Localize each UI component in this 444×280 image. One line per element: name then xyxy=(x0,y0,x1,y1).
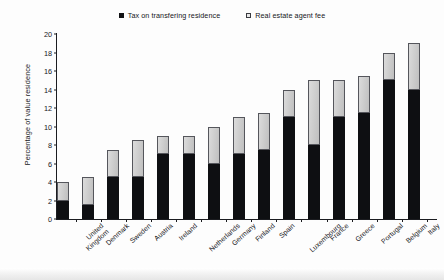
bar-segment-tax[interactable] xyxy=(308,145,320,219)
y-axis-tick: 8 xyxy=(41,141,57,150)
y-axis-tick-label: 4 xyxy=(41,178,52,187)
bar-stack[interactable] xyxy=(258,113,270,219)
bar-stack[interactable] xyxy=(183,136,195,219)
bar-stack[interactable] xyxy=(308,80,320,219)
x-axis-label: Italy xyxy=(427,222,442,237)
bar-segment-tax[interactable] xyxy=(82,205,94,219)
bar-segment-agent-fee[interactable] xyxy=(107,150,119,178)
bar-segment-agent-fee[interactable] xyxy=(208,127,220,164)
y-axis-tick-label: 14 xyxy=(41,85,52,94)
x-axis-label: Spain xyxy=(277,222,296,240)
bar-stack[interactable] xyxy=(408,43,420,219)
bar-segment-tax[interactable] xyxy=(408,90,420,220)
bar-segment-tax[interactable] xyxy=(157,154,169,219)
bar-segment-tax[interactable] xyxy=(107,177,119,219)
bar-stack[interactable] xyxy=(157,136,169,219)
y-axis-tick-label: 0 xyxy=(41,215,52,224)
y-axis-tick-mark xyxy=(54,108,57,109)
y-axis-tick-label: 12 xyxy=(41,104,52,113)
bar-stack[interactable] xyxy=(208,127,220,220)
x-axis-tick-mark xyxy=(126,219,127,222)
chart-area: Percentage of value residence 0246810121… xyxy=(0,0,444,280)
y-axis-tick: 18 xyxy=(41,48,57,57)
bar-segment-agent-fee[interactable] xyxy=(383,53,395,81)
bar-segment-tax[interactable] xyxy=(233,154,245,219)
bar-stack[interactable] xyxy=(82,177,94,219)
x-axis-tick-mark xyxy=(151,219,152,222)
x-axis-tick-mark xyxy=(226,219,227,222)
bar-stack[interactable] xyxy=(358,76,370,219)
y-axis-tick: 20 xyxy=(41,30,57,39)
y-axis-tick-label: 16 xyxy=(41,67,52,76)
y-axis-tick-label: 8 xyxy=(41,141,52,150)
x-axis-tick-mark xyxy=(276,219,277,222)
x-axis-line xyxy=(56,219,437,220)
y-axis-tick: 4 xyxy=(41,178,57,187)
y-axis-tick-mark xyxy=(54,145,57,146)
bar-segment-agent-fee[interactable] xyxy=(183,136,195,155)
bar-stack[interactable] xyxy=(383,53,395,220)
bar-segment-agent-fee[interactable] xyxy=(358,76,370,113)
bar-segment-agent-fee[interactable] xyxy=(333,80,345,117)
y-axis-title: Percentage of value residence xyxy=(23,35,32,195)
x-axis-label: Portugal xyxy=(380,222,405,246)
y-axis-tick: 12 xyxy=(41,104,57,113)
y-axis-tick-label: 6 xyxy=(41,159,52,168)
bar-segment-agent-fee[interactable] xyxy=(57,182,69,201)
y-axis-tick-mark xyxy=(54,126,57,127)
x-axis-label: Belgium xyxy=(405,222,430,245)
x-axis-tick-mark xyxy=(101,219,102,222)
y-axis-tick: 2 xyxy=(41,196,57,205)
bar-segment-agent-fee[interactable] xyxy=(157,136,169,155)
bar-stack[interactable] xyxy=(333,80,345,219)
bar-segment-tax[interactable] xyxy=(132,177,144,219)
x-axis-tick-mark xyxy=(427,219,428,222)
x-axis-tick-mark xyxy=(76,219,77,222)
y-axis-tick-label: 2 xyxy=(41,196,52,205)
bar-segment-tax[interactable] xyxy=(57,201,69,220)
x-axis-tick-mark xyxy=(201,219,202,222)
bar-stack[interactable] xyxy=(233,117,245,219)
bar-segment-agent-fee[interactable] xyxy=(258,113,270,150)
y-axis-tick-mark xyxy=(54,34,57,35)
x-axis-label: Finland xyxy=(254,222,277,244)
x-axis-tick-mark xyxy=(402,219,403,222)
bar-segment-agent-fee[interactable] xyxy=(82,177,94,205)
bar-segment-tax[interactable] xyxy=(358,113,370,219)
y-axis-tick: 10 xyxy=(41,122,57,131)
bar-segment-tax[interactable] xyxy=(258,150,270,219)
bar-stack[interactable] xyxy=(107,150,119,219)
bar-segment-tax[interactable] xyxy=(383,80,395,219)
y-axis-tick-mark xyxy=(54,52,57,53)
x-axis-tick-mark xyxy=(301,219,302,222)
y-axis-tick-mark xyxy=(54,163,57,164)
bar-segment-tax[interactable] xyxy=(283,117,295,219)
bar-segment-agent-fee[interactable] xyxy=(308,80,320,145)
x-axis-tick-mark xyxy=(327,219,328,222)
x-axis-label: United Kingdom xyxy=(79,222,111,253)
bar-segment-tax[interactable] xyxy=(208,164,220,220)
bar-segment-tax[interactable] xyxy=(183,154,195,219)
chart-page: Tax on transfering residence Real estate… xyxy=(0,0,444,280)
y-axis-tick-label: 20 xyxy=(41,30,52,39)
x-axis-label: Greece xyxy=(354,222,377,244)
y-axis-tick: 16 xyxy=(41,67,57,76)
x-axis-tick-mark xyxy=(251,219,252,222)
x-axis-tick-mark xyxy=(352,219,353,222)
y-axis-tick: 6 xyxy=(41,159,57,168)
bar-segment-agent-fee[interactable] xyxy=(233,117,245,154)
bar-stack[interactable] xyxy=(283,90,295,220)
y-axis-tick-mark xyxy=(54,89,57,90)
y-axis-tick: 0 xyxy=(41,215,57,224)
bar-segment-agent-fee[interactable] xyxy=(132,140,144,177)
bar-stack[interactable] xyxy=(132,140,144,219)
plot-region: 02468101214161820 xyxy=(57,34,436,219)
bar-segment-agent-fee[interactable] xyxy=(283,90,295,118)
x-axis-label: Austria xyxy=(153,222,175,243)
page-bottom-edge xyxy=(0,268,444,280)
y-axis-tick: 14 xyxy=(41,85,57,94)
bar-segment-agent-fee[interactable] xyxy=(408,43,420,89)
x-axis-tick-mark xyxy=(176,219,177,222)
bar-segment-tax[interactable] xyxy=(333,117,345,219)
bar-stack[interactable] xyxy=(57,182,69,219)
